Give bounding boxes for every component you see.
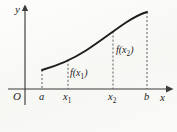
function-graph-figure: y x O a x1 x2 b f(x1) f(x2) <box>0 0 177 132</box>
annotation-f-x2: f(x2) <box>116 45 133 58</box>
tick-label-x1: x1 <box>63 92 71 105</box>
tick-label-b: b <box>144 92 149 103</box>
y-axis-label: y <box>15 4 20 15</box>
x-axis-arrowhead <box>166 86 174 93</box>
y-axis-arrowhead <box>22 5 28 12</box>
tick-label-x2: x2 <box>108 92 116 105</box>
tick-label-x1-subscript: 1 <box>68 97 72 105</box>
origin-label: O <box>13 91 21 102</box>
tick-label-x2-subscript: 2 <box>113 97 117 105</box>
x-axis-label: x <box>160 92 165 103</box>
tick-label-b-text: b <box>144 91 149 102</box>
annotation-f-x2-head: f(x <box>116 44 127 55</box>
annotation-f-x1-tail: ) <box>84 67 87 78</box>
tick-label-a: a <box>39 92 44 103</box>
annotation-f-x1-head: f(x <box>70 67 81 78</box>
plot-canvas <box>0 0 177 132</box>
annotation-f-x2-tail: ) <box>130 44 133 55</box>
function-curve <box>42 12 147 70</box>
annotation-f-x1: f(x1) <box>70 68 87 81</box>
tick-label-a-text: a <box>39 91 44 102</box>
